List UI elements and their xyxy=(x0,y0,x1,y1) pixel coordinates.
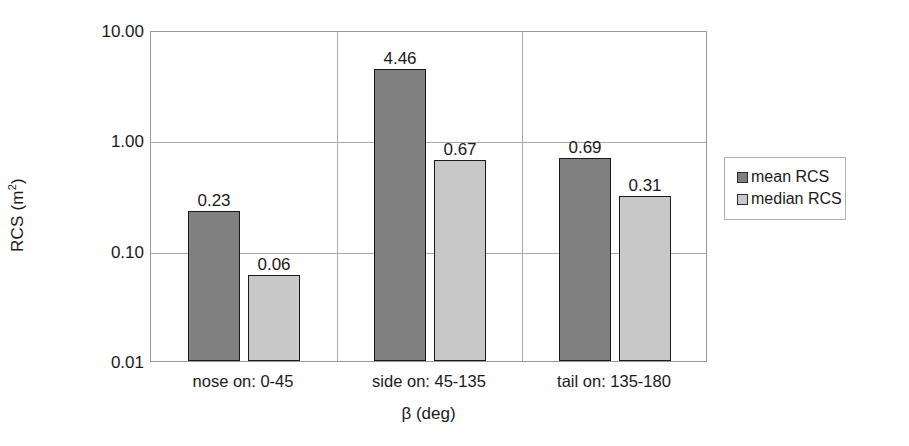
legend: mean RCS median RCS xyxy=(724,157,846,220)
legend-item-mean-rcs[interactable]: mean RCS xyxy=(725,166,845,188)
bar-median-1[interactable] xyxy=(434,160,486,361)
bar-value-label: 0.69 xyxy=(549,139,621,157)
bar-mean-1[interactable] xyxy=(374,69,426,361)
legend-swatch-median-rcs xyxy=(737,194,748,205)
bar-median-2[interactable] xyxy=(619,196,671,361)
y-axis-tick-label: 0.10 xyxy=(66,244,144,261)
x-axis-title: β (deg) xyxy=(150,404,707,424)
gridline-vertical xyxy=(337,32,338,361)
bar-value-label: 0.06 xyxy=(238,256,310,274)
legend-label-mean-rcs: mean RCS xyxy=(751,169,829,185)
y-axis-tick-label: 1.00 xyxy=(66,133,144,150)
y-axis-tick-labels: 10.001.000.100.01 xyxy=(58,0,144,446)
legend-swatch-mean-rcs xyxy=(737,172,748,183)
bar-value-label: 0.23 xyxy=(178,192,250,210)
y-axis-title: RCS (m2) xyxy=(6,135,28,295)
y-axis-title-exponent: 2 xyxy=(6,184,18,190)
y-axis-title-text: RCS (m xyxy=(8,190,27,252)
x-axis-category-label: side on: 45-135 xyxy=(336,372,522,391)
bar-mean-0[interactable] xyxy=(188,211,240,361)
legend-item-median-rcs[interactable]: median RCS xyxy=(725,188,845,210)
y-axis-tick-label: 0.01 xyxy=(66,354,144,371)
y-axis-tick-label: 10.00 xyxy=(66,23,144,40)
gridline-vertical xyxy=(522,32,523,361)
y-axis-title-paren: ) xyxy=(8,178,27,184)
legend-label-median-rcs: median RCS xyxy=(751,191,842,207)
bar-mean-2[interactable] xyxy=(559,158,611,361)
rcs-bar-chart-figure: RCS (m2) 10.001.000.100.01 0.230.064.460… xyxy=(0,0,909,446)
x-axis-category-label: tail on: 135-180 xyxy=(521,372,707,391)
plot-area: 0.230.064.460.670.690.31 xyxy=(150,31,707,362)
bar-value-label: 0.67 xyxy=(424,141,496,159)
bar-median-0[interactable] xyxy=(248,275,300,361)
bar-value-label: 4.46 xyxy=(364,50,436,68)
x-axis-category-label: nose on: 0-45 xyxy=(150,372,336,391)
bar-value-label: 0.31 xyxy=(609,177,681,195)
